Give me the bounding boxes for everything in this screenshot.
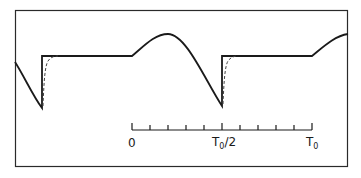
waveform-dashed-reset-1 [43, 56, 58, 106]
waveform-dashed-reset-2 [223, 56, 238, 104]
frame-border [16, 11, 348, 167]
axis-label-full-sub: 0 [313, 142, 318, 151]
axis-label-zero-text: 0 [128, 136, 136, 150]
waveform-diagram [0, 0, 361, 178]
axis-label-zero: 0 [128, 137, 136, 149]
axis-label-half-suffix: /2 [224, 135, 236, 149]
time-axis [132, 123, 312, 130]
axis-label-half-period: T0/2 [212, 136, 236, 151]
axis-label-full-period: T0 [306, 136, 318, 151]
waveform-solid [15, 34, 348, 108]
